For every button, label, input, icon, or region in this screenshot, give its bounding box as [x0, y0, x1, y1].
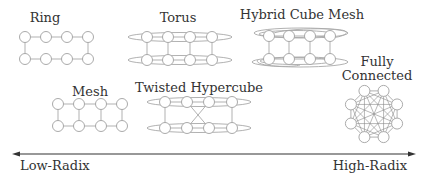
ring-label: Ring — [30, 10, 61, 25]
twisted-hypercube-label: Twisted Hypercube — [135, 80, 263, 95]
ring-nodes — [20, 32, 94, 65]
low-radix-label: Low-Radix — [20, 158, 90, 173]
fully-connected-label-line2: Connected — [342, 68, 413, 83]
arrow-right-icon — [408, 152, 416, 157]
mesh-label: Mesh — [72, 84, 109, 99]
hybrid-cube-mesh-topology: Hybrid Cube Mesh — [240, 7, 365, 67]
network-topology-diagram: Ring Torus — [0, 0, 424, 180]
mesh-nodes — [53, 99, 128, 132]
fully-connected-label-line1: Fully — [360, 54, 394, 69]
torus-label: Torus — [160, 10, 197, 25]
radix-axis: Low-Radix High-Radix — [12, 152, 416, 174]
ring-topology: Ring — [20, 10, 94, 65]
arrow-left-icon — [12, 152, 20, 157]
fully-connected-topology: Fully Connected — [342, 54, 413, 143]
fully-connected-edges — [351, 91, 397, 137]
high-radix-label: High-Radix — [333, 158, 408, 173]
mesh-topology: Mesh — [53, 84, 128, 132]
twisted-hypercube-topology: Twisted Hypercube — [135, 80, 263, 134]
torus-topology: Torus — [128, 10, 232, 66]
hybrid-cube-mesh-label: Hybrid Cube Mesh — [240, 7, 365, 22]
